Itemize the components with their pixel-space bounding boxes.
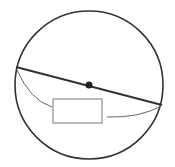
label-box	[53, 99, 102, 123]
circle-diameter-diagram	[0, 0, 175, 167]
center-point	[86, 82, 93, 89]
right-arc	[107, 106, 161, 117]
